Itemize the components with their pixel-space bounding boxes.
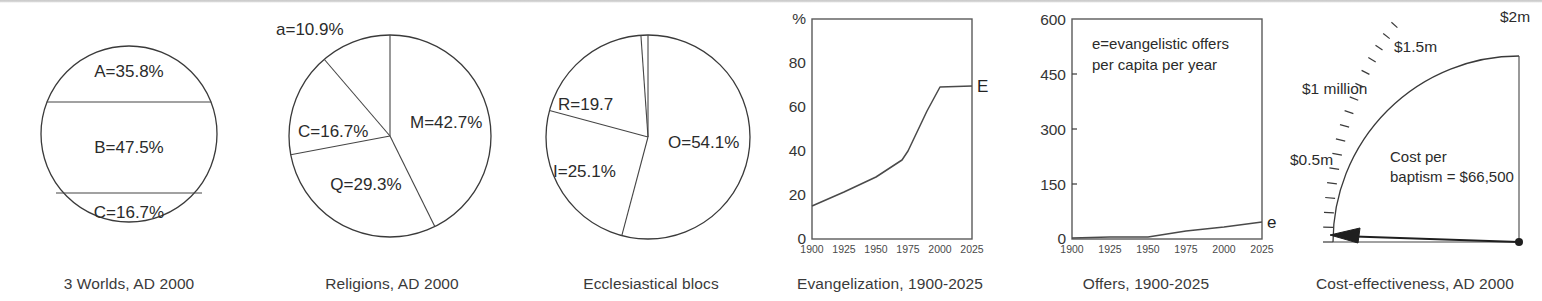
gauge-readout-line-1: Cost per: [1390, 148, 1447, 165]
panel-religions: M=42.7% Q=29.3% C=16.7% a=10.9% Religion…: [258, 0, 526, 301]
evangelization-xtick-1900: 1900: [800, 243, 824, 255]
offers-ytick-300: 300: [1040, 121, 1066, 138]
offers-xtick-2025: 2025: [1250, 243, 1274, 255]
panel-caption-religions: Religions, AD 2000: [258, 275, 526, 293]
religions-label-m: M=42.7%: [410, 113, 482, 132]
gauge-needle: [1330, 228, 1523, 246]
panel-caption-offers: Offers, 1900-2025: [1004, 275, 1288, 293]
panel-caption-three-worlds: 3 Worlds, AD 2000: [0, 275, 258, 293]
offers-xtick-1900: 1900: [1060, 243, 1084, 255]
panel-offers: 600 450 300 150 0 e=evangelistic offers …: [1004, 0, 1288, 301]
panel-caption-cost-effectiveness: Cost-effectiveness, AD 2000: [1288, 275, 1542, 293]
blocs-chart: O=54.1% I=25.1% R=19.7: [526, 0, 776, 255]
figure-sheet: A=35.8% B=47.5% C=16.7% 3 Worlds, AD 200…: [0, 0, 1542, 301]
blocs-label-o: O=54.1%: [668, 133, 739, 152]
gauge-label-two: $2m: [1500, 8, 1530, 25]
evangelization-plot-frame: [812, 19, 972, 239]
evangelization-chart: % 80 60 40 20 0 E 1900 1925 1950 1975 20…: [776, 0, 1004, 258]
blocs-label-r: R=19.7: [558, 95, 613, 114]
three-worlds-svg: A=35.8% B=47.5% C=16.7%: [0, 0, 258, 255]
religions-label-a: a=10.9%: [276, 20, 344, 39]
offers-xtick-2000: 2000: [1212, 243, 1236, 255]
gauge-label-one-million: $1 million: [1302, 80, 1367, 97]
gauge-svg: $0.5m $1 million $1.5m $2m Cost per bapt…: [1288, 0, 1542, 258]
three-worlds-chart: A=35.8% B=47.5% C=16.7%: [0, 0, 258, 255]
religions-label-q: Q=29.3%: [330, 175, 401, 194]
cost-effectiveness-chart: $0.5m $1 million $1.5m $2m Cost per bapt…: [1288, 0, 1542, 258]
offers-series-label: e: [1267, 213, 1276, 232]
evangelization-yunit: %: [792, 10, 806, 27]
worlds-label-c: C=16.7%: [94, 203, 164, 222]
evangelization-ytick-80: 80: [789, 54, 807, 71]
evangelization-xtick-2000: 2000: [928, 243, 952, 255]
blocs-divider-3: [641, 35, 648, 137]
blocs-label-i: I=25.1%: [553, 162, 616, 181]
offers-ytick-600: 600: [1040, 11, 1066, 28]
worlds-label-b: B=47.5%: [94, 138, 163, 157]
gauge-readout-line-2: baptism = $66,500: [1390, 168, 1514, 185]
gauge-label-half: $0.5m: [1290, 151, 1333, 168]
offers-ytick-150: 150: [1040, 176, 1066, 193]
blocs-divider-1: [622, 137, 648, 236]
evangelization-series-label: E: [977, 77, 988, 96]
evangelization-xtick-1975: 1975: [896, 243, 920, 255]
offers-chart: 600 450 300 150 0 e=evangelistic offers …: [1004, 0, 1288, 258]
panel-evangelization: % 80 60 40 20 0 E 1900 1925 1950 1975 20…: [776, 0, 1004, 301]
panel-caption-blocs: Ecclesiastical blocs: [526, 275, 776, 293]
gauge-label-one-five: $1.5m: [1394, 38, 1437, 55]
offers-svg: 600 450 300 150 0 e=evangelistic offers …: [1004, 0, 1288, 258]
religions-svg: M=42.7% Q=29.3% C=16.7% a=10.9%: [258, 0, 526, 255]
offers-xtick-1975: 1975: [1174, 243, 1198, 255]
worlds-label-a: A=35.8%: [94, 62, 163, 81]
offers-note-line-1: e=evangelistic offers: [1092, 35, 1229, 52]
panel-three-worlds: A=35.8% B=47.5% C=16.7% 3 Worlds, AD 200…: [0, 0, 258, 301]
blocs-svg: O=54.1% I=25.1% R=19.7: [526, 0, 776, 255]
panel-caption-evangelization: Evangelization, 1900-2025: [776, 275, 1004, 293]
evangelization-series-line: [812, 86, 972, 206]
religions-label-c: C=16.7%: [298, 122, 368, 141]
blocs-divider-2: [550, 111, 649, 138]
evangelization-svg: % 80 60 40 20 0 E 1900 1925 1950 1975 20…: [776, 0, 1004, 258]
offers-ytick-450: 450: [1040, 66, 1066, 83]
panel-cost-effectiveness: $0.5m $1 million $1.5m $2m Cost per bapt…: [1288, 0, 1542, 301]
religions-chart: M=42.7% Q=29.3% C=16.7% a=10.9%: [258, 0, 526, 255]
evangelization-xtick-2025: 2025: [960, 243, 984, 255]
gauge-pivot-dot: [1515, 238, 1523, 246]
evangelization-ytick-40: 40: [789, 142, 807, 159]
evangelization-xtick-1925: 1925: [832, 243, 856, 255]
evangelization-xtick-1950: 1950: [864, 243, 888, 255]
gauge-tick-group: [1323, 22, 1397, 242]
evangelization-ytick-20: 20: [789, 186, 807, 203]
panel-ecclesiastical-blocs: O=54.1% I=25.1% R=19.7 Ecclesiastical bl…: [526, 0, 776, 301]
offers-plot-frame: [1072, 19, 1262, 239]
evangelization-ytick-60: 60: [789, 98, 807, 115]
offers-xtick-1950: 1950: [1136, 243, 1160, 255]
offers-note-line-2: per capita per year: [1092, 56, 1217, 73]
offers-series-line: [1072, 222, 1262, 238]
offers-xtick-1925: 1925: [1098, 243, 1122, 255]
